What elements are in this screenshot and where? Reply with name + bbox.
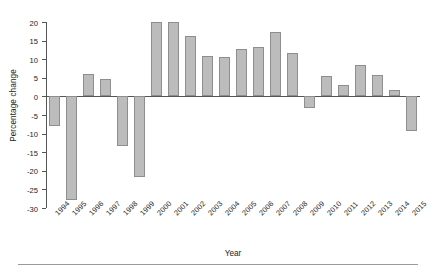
bar — [168, 22, 180, 97]
bar — [304, 96, 316, 108]
y-axis-tick: 20 — [42, 22, 46, 23]
y-axis-tick-label: 10 — [30, 55, 38, 64]
y-axis-spine — [46, 22, 47, 208]
bar — [236, 49, 248, 97]
y-axis-tick-label: 15 — [30, 37, 38, 46]
plot-area: 20151050-5-10-15-20-25-30 — [46, 22, 420, 208]
y-axis-label: Percentage change — [4, 0, 22, 210]
bar — [100, 79, 112, 97]
bottom-divider — [18, 264, 418, 265]
bar — [372, 75, 384, 96]
y-axis-tick: -25 — [42, 189, 46, 190]
y-axis-tick-label: -5 — [31, 111, 38, 120]
y-axis-tick-label: -25 — [27, 185, 38, 194]
y-axis-tick-label: 0 — [34, 92, 38, 101]
bar — [389, 90, 401, 96]
zero-baseline — [46, 96, 420, 97]
bar — [49, 96, 61, 126]
bar — [287, 53, 299, 96]
x-axis-label: Year — [46, 249, 420, 258]
bar — [66, 96, 78, 199]
y-axis-tick: -20 — [42, 171, 46, 172]
y-axis-tick: -5 — [42, 115, 46, 116]
y-axis-tick: 10 — [42, 59, 46, 60]
y-axis-tick-label: 5 — [34, 74, 38, 83]
bar — [338, 85, 350, 97]
bar — [406, 96, 418, 131]
y-axis-tick-label: -20 — [27, 167, 38, 176]
y-axis-label-text: Percentage change — [9, 69, 18, 142]
bar — [270, 32, 282, 97]
bar — [83, 74, 95, 96]
y-axis-tick-label: -15 — [27, 148, 38, 157]
bar — [151, 22, 163, 97]
bar — [355, 65, 367, 97]
y-axis-tick-label: 20 — [30, 18, 38, 27]
x-axis-tick-labels: 1994199519961997199819992000200120022003… — [46, 208, 420, 250]
y-axis-tick-label: -30 — [27, 204, 38, 213]
y-axis-tick: -10 — [42, 134, 46, 135]
y-axis-tick: 5 — [42, 78, 46, 79]
bar — [202, 56, 214, 97]
bar — [219, 57, 231, 96]
bar-chart-figure: Percentage change 20151050-5-10-15-20-25… — [0, 0, 434, 275]
bar — [321, 76, 333, 96]
y-axis-tick: 15 — [42, 41, 46, 42]
bar — [185, 36, 197, 97]
y-axis-tick: -15 — [42, 152, 46, 153]
y-axis-tick-label: -10 — [27, 130, 38, 139]
bar — [253, 47, 265, 97]
bar — [117, 96, 129, 146]
bar — [134, 96, 146, 177]
